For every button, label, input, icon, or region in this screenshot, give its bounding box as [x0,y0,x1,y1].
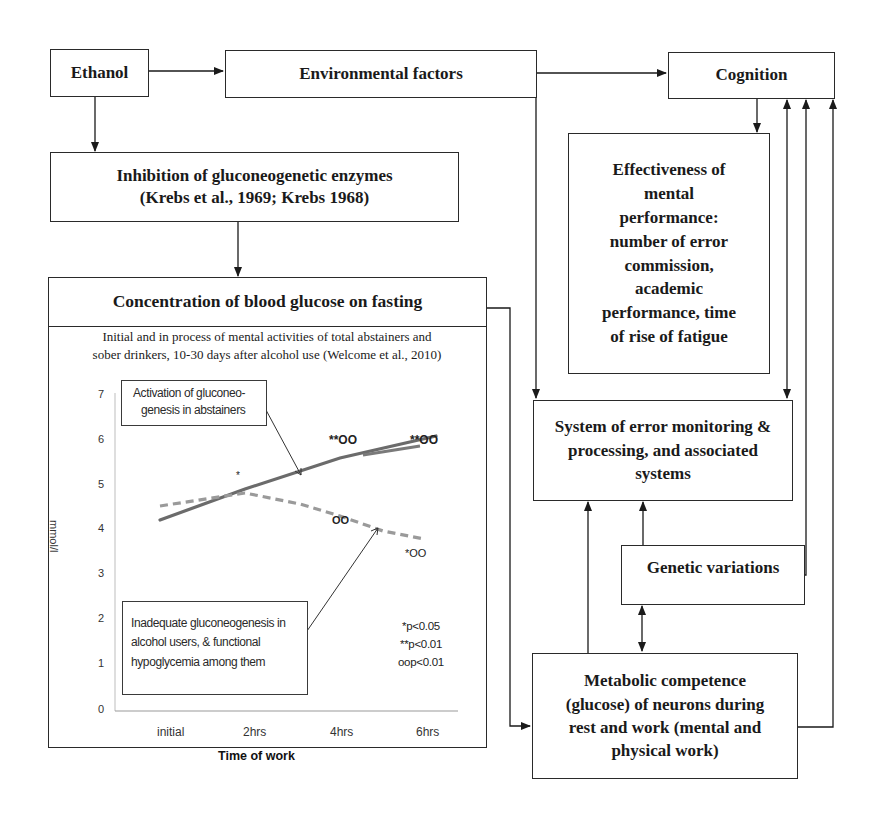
x-axis-label: Time of work [218,749,295,763]
annotation-4hrs-abstainers: **OO [329,433,357,447]
error-system-line1: System of error monitoring & [555,415,772,438]
y-tick-0: 0 [98,703,104,715]
callout-abstainers-line2: genesis in abstainers [133,402,266,419]
callout-abstainers-line1: Activation of gluconeo- [133,385,266,402]
genetic-variations-label: Genetic variations [647,557,780,579]
effectiveness-box: Effectiveness of mental performance: num… [568,133,770,374]
metabolic-line3: rest and work (mental and [569,716,761,739]
y-tick-4: 4 [98,522,104,534]
effectiveness-line7: performance, time [602,301,736,325]
error-system-line2: processing, and associated [568,439,758,462]
sig-p005: *p<0.05 [398,618,444,636]
callout-pointer-top [266,410,301,475]
x-tick-2hrs: 2hrs [243,725,266,739]
callout-alcohol-users-line1: Inadequate gluconeogenesis in [131,614,307,633]
annotation-6hrs-alcohol: *OO [405,547,426,559]
y-tick-7: 7 [98,388,104,400]
metabolic-line2: (glucose) of neurons during [566,693,765,716]
sig-oop001: oop<0.01 [398,654,444,672]
callout-alcohol-users: Inadequate gluconeogenesis in alcohol us… [122,601,308,695]
metabolic-competence-box: Metabolic competence (glucose) of neuron… [532,653,798,779]
y-tick-3: 3 [98,567,104,579]
y-tick-1: 1 [98,657,104,669]
metabolic-line4: physical work) [611,739,718,762]
effectiveness-line8: of rise of fatigue [610,325,728,349]
y-tick-2: 2 [98,612,104,624]
annotation-2hrs-star: * [236,470,240,481]
error-system-line3: systems [635,462,691,485]
effectiveness-line5: commission, [624,254,713,278]
callout-pointer-bottom [307,528,378,631]
effectiveness-line4: number of error [610,230,728,254]
genetic-variations-box: Genetic variations [621,545,805,605]
callout-abstainers: Activation of gluconeo- genesis in absta… [121,380,267,426]
metabolic-line1: Metabolic competence [584,669,746,692]
annotation-6hrs-abstainers: **OO [410,433,438,447]
y-tick-5: 5 [98,478,104,490]
error-system-box: System of error monitoring & processing,… [533,400,793,501]
x-tick-6hrs: 6hrs [416,725,439,739]
callout-alcohol-users-line2: alcohol users, & functional [131,633,307,652]
effectiveness-line1: Effectiveness of [613,158,726,182]
effectiveness-line2: mental [644,182,694,206]
series-alcohol-users-line [160,493,424,539]
callout-alcohol-users-line3: hypoglycemia among them [131,653,307,672]
effectiveness-line6: academic [635,277,703,301]
effectiveness-line3: performance: [619,206,718,230]
x-tick-4hrs: 4hrs [330,725,353,739]
annotation-4hrs-alcohol: OO [332,514,349,526]
y-tick-6: 6 [98,433,104,445]
y-axis-label: mmol/l [48,520,60,552]
sig-p001: **p<0.01 [398,636,444,654]
x-tick-initial: initial [157,725,184,739]
significance-legend: *p<0.05 **p<0.01 oop<0.01 [398,618,444,671]
